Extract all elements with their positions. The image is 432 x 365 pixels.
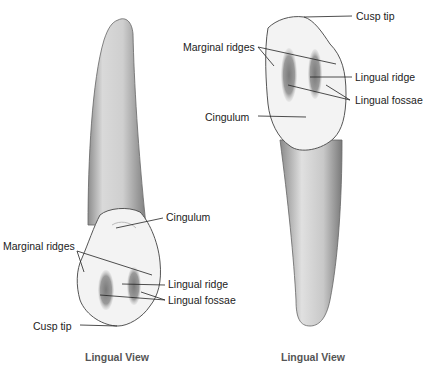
left-tooth	[77, 19, 160, 326]
right-caption: Lingual View	[281, 351, 345, 363]
left-crown	[77, 208, 160, 326]
left-root	[88, 19, 146, 225]
left-caption: Lingual View	[85, 351, 149, 363]
left-fossa-distal	[127, 267, 141, 305]
right-crown	[266, 17, 346, 151]
right-label-marginal-ridges: Marginal ridges	[183, 41, 255, 53]
right-fossa-mesial	[281, 48, 297, 102]
right-label-lingual-fossae: Lingual fossae	[355, 94, 423, 106]
left-label-lingual-ridge: Lingual ridge	[168, 278, 228, 290]
left-label-lingual-fossae: Lingual fossae	[168, 294, 236, 306]
right-label-cusp-tip: Cusp tip	[356, 10, 395, 22]
right-root	[280, 140, 342, 326]
tooth-illustrations	[0, 0, 432, 365]
tooth-diagram: Cingulum Marginal ridges Lingual ridge L…	[0, 0, 432, 365]
right-label-lingual-ridge: Lingual ridge	[355, 71, 415, 83]
left-label-marginal-ridges: Marginal ridges	[3, 240, 75, 252]
right-tooth	[266, 17, 346, 326]
left-fossa-mesial	[98, 270, 114, 310]
left-label-cingulum: Cingulum	[166, 211, 210, 223]
left-label-cusp-tip: Cusp tip	[33, 320, 72, 332]
right-label-cingulum: Cingulum	[205, 111, 249, 123]
